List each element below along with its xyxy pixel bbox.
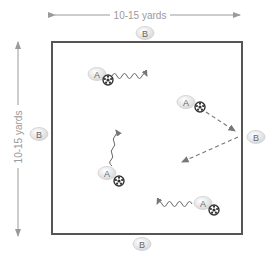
player-b-top: B	[136, 27, 154, 40]
drill-diagram: 10-15 yards 10-15 yards B B B B A A	[0, 0, 274, 263]
vertical-dimension: 10-15 yards	[13, 42, 24, 236]
vertical-dimension-label: 10-15 yards	[13, 111, 24, 164]
player-a-dribble-left: A	[157, 197, 219, 216]
soccer-ball-icon	[103, 75, 113, 85]
player-a-dribble-right: A	[88, 68, 147, 86]
svg-text:B: B	[142, 29, 148, 39]
player-a-dribble-up: A	[98, 130, 124, 186]
return-pass-arrow-icon	[182, 137, 238, 162]
svg-text:A: A	[104, 169, 110, 179]
horizontal-dimension: 10-15 yards	[55, 10, 240, 21]
soccer-ball-icon	[195, 102, 205, 112]
soccer-ball-icon	[114, 176, 124, 186]
svg-text:B: B	[36, 130, 42, 140]
pass-arrow-icon	[206, 112, 235, 131]
player-b-right: B	[247, 131, 265, 144]
dribble-path-icon	[157, 202, 192, 207]
horizontal-dimension-label: 10-15 yards	[114, 10, 167, 21]
svg-text:A: A	[94, 70, 100, 80]
player-a-pass-combo: A	[177, 96, 238, 163]
svg-text:B: B	[253, 133, 259, 143]
player-b-bottom: B	[133, 238, 151, 251]
player-b-left: B	[30, 128, 48, 141]
dribble-path-icon	[112, 74, 147, 79]
svg-text:A: A	[183, 98, 189, 108]
svg-text:A: A	[200, 199, 206, 209]
soccer-ball-icon	[209, 205, 219, 215]
dribble-path-icon	[110, 130, 117, 166]
svg-text:B: B	[139, 240, 145, 250]
